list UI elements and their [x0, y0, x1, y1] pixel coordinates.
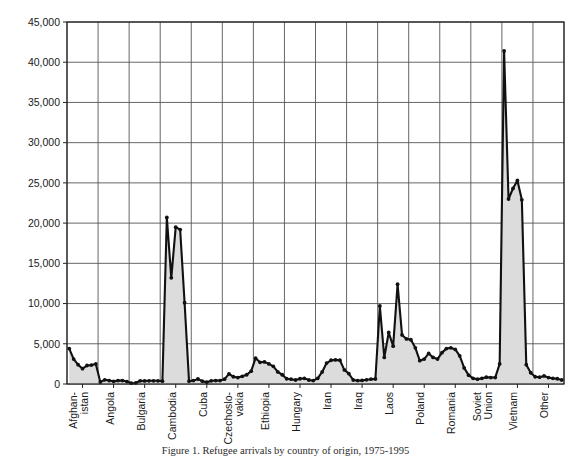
- line-chart: 05,00010,00015,00020,00025,00030,00035,0…: [0, 0, 571, 458]
- data-point: [143, 379, 147, 383]
- data-point: [214, 379, 218, 383]
- data-point: [533, 375, 537, 379]
- data-point: [267, 362, 271, 366]
- data-point: [271, 364, 275, 368]
- x-tick-label-2: Angola: [104, 392, 116, 425]
- data-point: [81, 367, 85, 371]
- y-tick-label: 45,000: [28, 16, 60, 28]
- data-point: [391, 344, 395, 348]
- data-point: [502, 49, 506, 53]
- data-point: [232, 375, 236, 379]
- x-tick-label-16: Other: [538, 392, 550, 419]
- figure-caption: Figure 1. Refugee arrivals by country of…: [0, 443, 571, 458]
- data-point: [85, 364, 89, 368]
- y-tick-label: 15,000: [28, 257, 60, 269]
- data-point: [405, 337, 409, 341]
- data-point: [67, 347, 71, 351]
- chart-background: [0, 0, 571, 458]
- data-point: [285, 377, 289, 381]
- data-point: [161, 379, 165, 383]
- data-point: [294, 378, 298, 382]
- data-point: [192, 379, 196, 383]
- data-point: [422, 357, 426, 361]
- data-point: [351, 378, 355, 382]
- x-tick-label-7: Ethiopia: [259, 392, 271, 430]
- data-point: [560, 378, 564, 382]
- y-tick-label: 40,000: [28, 56, 60, 68]
- data-point: [449, 346, 453, 350]
- y-tick-label: 10,000: [28, 297, 60, 309]
- data-point: [507, 197, 511, 201]
- data-point: [547, 376, 551, 380]
- x-tick-label-11: Laos: [383, 392, 395, 415]
- data-point: [329, 358, 333, 362]
- data-point: [347, 372, 351, 376]
- data-point: [276, 370, 280, 374]
- y-tick-label: 5,000: [34, 338, 60, 350]
- data-point: [200, 379, 204, 383]
- data-point: [445, 347, 449, 351]
- data-point: [311, 379, 315, 383]
- data-point: [360, 378, 364, 382]
- data-point: [484, 375, 488, 379]
- data-point: [413, 346, 417, 350]
- data-point: [431, 356, 435, 360]
- data-point: [249, 369, 253, 373]
- data-point: [147, 379, 151, 383]
- data-point: [218, 379, 222, 383]
- data-point: [280, 373, 284, 377]
- data-point: [223, 377, 227, 381]
- data-point: [374, 377, 378, 381]
- data-point: [529, 371, 533, 375]
- data-point: [458, 354, 462, 358]
- data-point: [555, 377, 559, 381]
- data-point: [409, 338, 413, 342]
- x-tick-label-15: Vietnam: [507, 392, 519, 431]
- data-point: [471, 376, 475, 380]
- data-point: [107, 379, 111, 383]
- y-tick-label: 20,000: [28, 217, 60, 229]
- data-point: [382, 356, 386, 360]
- data-point: [369, 377, 373, 381]
- data-point: [476, 377, 480, 381]
- data-point: [103, 378, 107, 382]
- data-point: [209, 379, 213, 383]
- data-point: [98, 380, 102, 384]
- y-tick-label: 30,000: [28, 136, 60, 148]
- data-point: [245, 373, 249, 377]
- data-point: [152, 379, 156, 383]
- data-point: [174, 225, 178, 229]
- data-point: [307, 378, 311, 382]
- data-point: [187, 379, 191, 383]
- data-point: [436, 357, 440, 361]
- data-point: [325, 361, 329, 365]
- data-point: [121, 379, 125, 383]
- data-point: [90, 363, 94, 367]
- y-tick-label: 35,000: [28, 96, 60, 108]
- y-tick-label: 0: [54, 378, 60, 390]
- data-point: [378, 304, 382, 308]
- data-point: [320, 370, 324, 374]
- data-point: [427, 352, 431, 356]
- data-point: [356, 379, 360, 383]
- data-point: [303, 376, 307, 380]
- data-point: [524, 363, 528, 367]
- data-point: [542, 374, 546, 378]
- data-point: [418, 359, 422, 363]
- data-point: [196, 377, 200, 381]
- data-point: [183, 301, 187, 305]
- data-point: [76, 363, 80, 367]
- x-tick-label-12: Poland: [414, 392, 426, 425]
- figure-container: 05,00010,00015,00020,00025,00030,00035,0…: [0, 0, 571, 458]
- data-point: [227, 372, 231, 376]
- data-point: [125, 380, 129, 384]
- data-point: [298, 377, 302, 381]
- data-point: [489, 376, 493, 380]
- data-point: [365, 378, 369, 382]
- data-point: [551, 376, 555, 380]
- data-point: [240, 374, 244, 378]
- data-point: [400, 333, 404, 337]
- data-point: [396, 282, 400, 286]
- data-point: [493, 376, 497, 380]
- x-tick-label-14: Union: [482, 392, 494, 420]
